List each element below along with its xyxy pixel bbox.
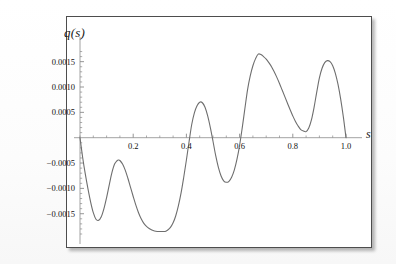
plot-canvas [67,17,371,247]
y-tick-label: −0.0015 [47,210,75,219]
y-tick-label: 0.0005 [52,108,75,117]
y-tick-label: −0.0005 [47,159,75,168]
x-tick-label: 1.0 [334,142,358,151]
plot-area: q(s) s 0.00150.00100.0005−0.0005−0.0010−… [67,17,371,247]
data-curve-qs [80,54,346,232]
x-axis-major-ticks [133,134,346,138]
y-axis-label: q(s) [64,26,85,39]
x-tick-label: 0.8 [281,142,305,151]
x-axis-label: s [366,128,371,140]
y-tick-label: −0.0010 [47,184,75,193]
x-tick-label: 0.4 [174,142,198,151]
y-tick-label: 0.0010 [52,83,75,92]
figure-frame: q(s) s 0.00150.00100.0005−0.0005−0.0010−… [66,16,372,248]
y-tick-label: 0.0015 [52,58,75,67]
x-tick-label: 0.6 [228,142,252,151]
chart-screenshot: q(s) s 0.00150.00100.0005−0.0005−0.0010−… [0,0,396,264]
x-tick-label: 0.2 [121,142,145,151]
